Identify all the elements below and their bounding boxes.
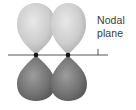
lower-left-lobe <box>17 55 55 101</box>
lower-right-lobe <box>51 55 87 101</box>
nodal-plane-label-line1: Nodal <box>97 14 125 26</box>
nucleus-left <box>34 53 39 58</box>
upper-left-lobe <box>17 3 55 55</box>
upper-right-lobe <box>51 3 86 55</box>
nodal-plane-label-line2: plane <box>97 27 123 39</box>
nucleus-right <box>66 53 71 58</box>
pi-orbital-diagram: Nodal plane <box>0 0 136 110</box>
